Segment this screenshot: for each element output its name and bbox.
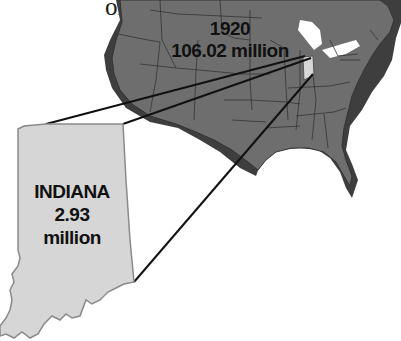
indiana-population-value: 2.93 [12,203,132,226]
us-population: 106.02 million [165,40,295,62]
us-population-label: 1920 106.02 million [165,18,295,62]
us-year: 1920 [165,18,295,40]
indiana-name: INDIANA [12,180,132,203]
indiana-population-unit: million [12,226,132,249]
indiana-population-label: INDIANA 2.93 million [12,180,132,249]
